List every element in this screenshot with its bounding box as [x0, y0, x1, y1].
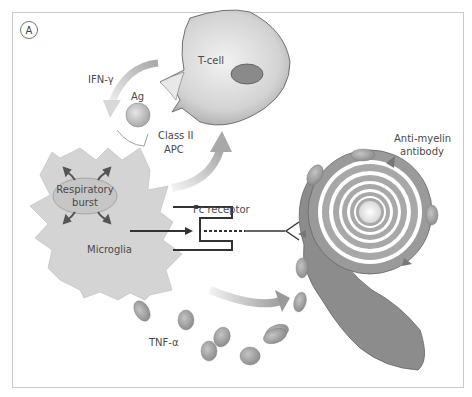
- t-cell: [160, 10, 290, 125]
- tnf-arrow: [210, 290, 290, 312]
- panel-label-badge: A: [20, 21, 38, 39]
- mhc-class-ii-cup: [117, 130, 148, 146]
- respiratory-label: Respiratory: [56, 184, 114, 196]
- class-ii-label: Class II: [158, 130, 193, 142]
- myelinated-axon: [299, 150, 432, 370]
- t-cell-nucleus: [231, 64, 263, 84]
- fc-receptor-label: Fc receptor: [193, 204, 250, 216]
- antibody-label: antibody: [400, 146, 444, 158]
- ifn-gamma-label: IFN-γ: [88, 74, 114, 86]
- ag-label: Ag: [131, 91, 144, 103]
- apc-label: APC: [164, 144, 184, 156]
- burst-label: burst: [56, 197, 114, 209]
- tnf-alpha-particles: [130, 298, 288, 365]
- antigen-ball: [126, 103, 150, 127]
- t-cell-label: T-cell: [198, 55, 224, 67]
- microglia-label: Microglia: [87, 244, 132, 256]
- tnf-alpha-label: TNF-α: [149, 337, 179, 349]
- anti-myelin-label: Anti-myelin: [394, 133, 451, 145]
- antibody-y-icon: [286, 222, 299, 240]
